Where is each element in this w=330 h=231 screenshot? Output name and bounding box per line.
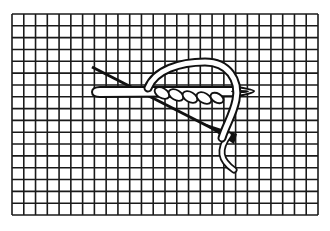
canvas-grid [12, 14, 318, 215]
stitch-diagram [0, 0, 330, 231]
diagram-canvas [0, 0, 330, 231]
